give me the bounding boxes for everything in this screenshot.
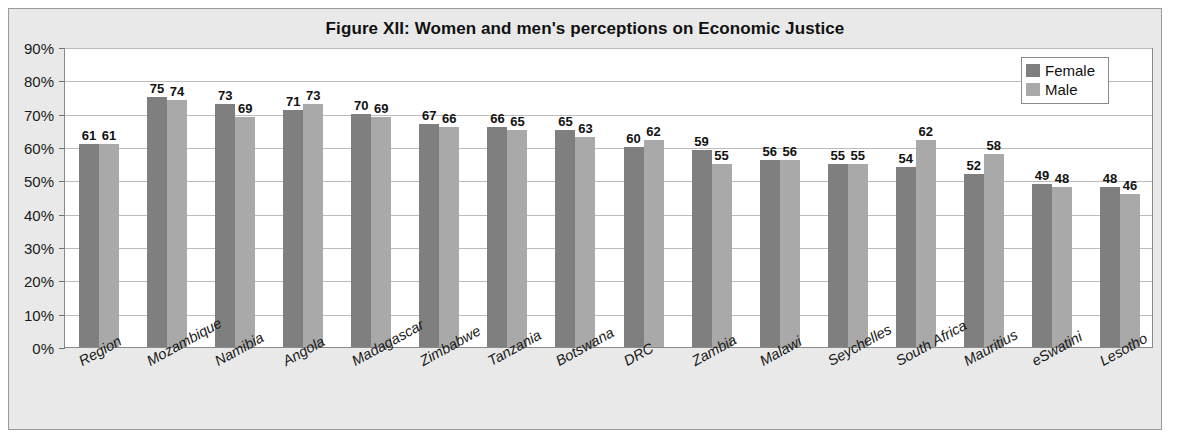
bar-value-label-female-2: 73 <box>218 88 232 103</box>
bar-value-label-male-7: 63 <box>578 121 592 136</box>
bar-value-label-female-14: 49 <box>1035 168 1049 183</box>
chart-screenshot: Figure XII: Women and men's perceptions … <box>0 0 1178 439</box>
bar-male-9 <box>712 164 732 347</box>
page-title: Figure XII: Women and men's perceptions … <box>9 19 1161 39</box>
bar-female-2 <box>215 104 235 347</box>
bar-male-6 <box>507 130 527 347</box>
bar-value-label-female-11: 55 <box>830 148 844 163</box>
y-tick-label-90: 90% <box>9 40 54 57</box>
bar-male-3 <box>303 104 323 347</box>
bar-value-label-female-6: 66 <box>490 111 504 126</box>
bar-female-3 <box>283 110 303 347</box>
bar-female-1 <box>147 97 167 347</box>
y-tick-label-50: 50% <box>9 173 54 190</box>
y-tick-label-70: 70% <box>9 106 54 123</box>
y-tick-label-80: 80% <box>9 73 54 90</box>
bar-male-0 <box>99 144 119 347</box>
bar-female-5 <box>419 124 439 347</box>
y-tick-mark-20 <box>59 281 64 282</box>
bar-female-7 <box>555 130 575 347</box>
plot-inner: 6161757473697173706967666665656360625955… <box>65 48 1152 347</box>
bar-value-label-male-2: 69 <box>238 101 252 116</box>
bar-value-label-male-15: 46 <box>1123 178 1137 193</box>
bar-value-label-male-13: 58 <box>987 138 1001 153</box>
y-tick-label-40: 40% <box>9 206 54 223</box>
legend-swatch-female-icon <box>1026 64 1040 77</box>
bar-value-label-female-8: 60 <box>626 131 640 146</box>
bar-male-13 <box>984 154 1004 347</box>
bar-female-6 <box>487 127 507 347</box>
bar-value-label-male-4: 69 <box>374 101 388 116</box>
y-tick-mark-60 <box>59 148 64 149</box>
y-tick-label-0: 0% <box>9 340 54 357</box>
bar-female-9 <box>692 150 712 347</box>
legend-label-female: Female <box>1045 63 1095 78</box>
bar-value-label-male-0: 61 <box>102 128 116 143</box>
bar-value-label-male-14: 48 <box>1055 171 1069 186</box>
bar-value-label-male-10: 56 <box>782 144 796 159</box>
bar-male-11 <box>848 164 868 347</box>
bar-female-11 <box>828 164 848 347</box>
bar-female-14 <box>1032 184 1052 347</box>
bar-value-label-male-1: 74 <box>170 84 184 99</box>
y-tick-label-20: 20% <box>9 273 54 290</box>
bar-female-10 <box>760 160 780 347</box>
y-tick-label-10: 10% <box>9 306 54 323</box>
y-tick-mark-70 <box>59 115 64 116</box>
legend-item-male: Male <box>1026 80 1104 99</box>
bar-value-label-female-13: 52 <box>967 158 981 173</box>
y-tick-mark-0 <box>59 348 64 349</box>
bar-female-15 <box>1100 187 1120 347</box>
bar-male-12 <box>916 140 936 347</box>
bar-female-0 <box>79 144 99 347</box>
gridline-80 <box>65 81 1152 82</box>
bar-value-label-male-12: 62 <box>919 124 933 139</box>
bar-male-8 <box>644 140 664 347</box>
bar-value-label-female-1: 75 <box>150 81 164 96</box>
bar-male-2 <box>235 117 255 347</box>
bar-value-label-male-3: 73 <box>306 88 320 103</box>
bar-value-label-male-5: 66 <box>442 111 456 126</box>
bar-value-label-female-3: 71 <box>286 94 300 109</box>
bar-value-label-female-7: 65 <box>558 114 572 129</box>
bar-value-label-female-9: 59 <box>694 134 708 149</box>
legend-swatch-male-icon <box>1026 83 1040 96</box>
bar-value-label-male-11: 55 <box>850 148 864 163</box>
y-tick-label-60: 60% <box>9 140 54 157</box>
bar-value-label-male-8: 62 <box>646 124 660 139</box>
legend-item-female: Female <box>1026 61 1104 80</box>
plot-area: 6161757473697173706967666665656360625955… <box>64 48 1153 348</box>
bar-male-1 <box>167 100 187 347</box>
y-tick-mark-50 <box>59 181 64 182</box>
bar-value-label-male-9: 55 <box>714 148 728 163</box>
gridline-90 <box>65 48 1152 49</box>
bar-value-label-female-5: 67 <box>422 108 436 123</box>
y-tick-mark-80 <box>59 81 64 82</box>
bar-male-15 <box>1120 194 1140 347</box>
bar-male-14 <box>1052 187 1072 347</box>
bar-value-label-female-4: 70 <box>354 98 368 113</box>
y-tick-label-30: 30% <box>9 240 54 257</box>
bar-value-label-female-15: 48 <box>1103 171 1117 186</box>
chart-legend: Female Male <box>1021 57 1109 104</box>
y-tick-mark-30 <box>59 248 64 249</box>
chart-frame: Figure XII: Women and men's perceptions … <box>8 8 1162 430</box>
bar-female-12 <box>896 167 916 347</box>
bar-male-4 <box>371 117 391 347</box>
bar-male-7 <box>575 137 595 347</box>
legend-label-male: Male <box>1045 82 1078 97</box>
bar-value-label-female-10: 56 <box>762 144 776 159</box>
bar-value-label-male-6: 65 <box>510 114 524 129</box>
bar-male-10 <box>780 160 800 347</box>
y-tick-mark-90 <box>59 48 64 49</box>
bar-male-5 <box>439 127 459 347</box>
bar-value-label-female-0: 61 <box>82 128 96 143</box>
y-tick-mark-10 <box>59 315 64 316</box>
bar-female-13 <box>964 174 984 347</box>
bar-female-8 <box>624 147 644 347</box>
y-tick-mark-40 <box>59 215 64 216</box>
bar-female-4 <box>351 114 371 347</box>
bar-value-label-female-12: 54 <box>899 151 913 166</box>
